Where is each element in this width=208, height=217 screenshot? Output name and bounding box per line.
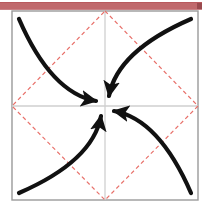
figure-container bbox=[0, 0, 208, 217]
phase-portrait-figure bbox=[0, 0, 208, 217]
